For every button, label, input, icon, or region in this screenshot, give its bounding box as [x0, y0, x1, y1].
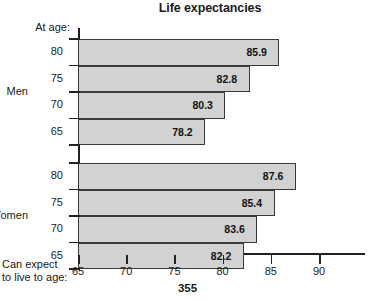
chart-figure: Life expectancies At age: 85.982.880.378…	[0, 0, 375, 300]
bar-value-label: 80.3	[192, 99, 212, 111]
bar-row: 80.3	[78, 92, 375, 119]
x-axis-tick-label: 80	[210, 265, 236, 277]
y-axis-caption: At age:	[12, 21, 70, 33]
x-axis-tick	[78, 255, 80, 264]
bar-row: 85.9	[78, 39, 375, 66]
bar-value-label: 82.8	[217, 73, 237, 85]
chart-title: Life expectancies	[110, 1, 310, 15]
y-axis-tick	[69, 242, 80, 244]
y-axis-tick-label: 65	[33, 125, 63, 137]
y-axis-tick-label: 70	[33, 222, 63, 234]
y-axis-tick-label: 80	[33, 169, 63, 181]
y-axis-tick-label: 70	[33, 98, 63, 110]
y-axis-tick-label: 80	[33, 45, 63, 57]
y-axis-tick	[69, 189, 80, 191]
y-axis-tick	[69, 144, 80, 146]
x-axis-tick	[319, 255, 321, 264]
x-axis-tick-label: 85	[258, 265, 284, 277]
y-axis-tick	[69, 162, 80, 164]
x-axis-tick	[126, 255, 128, 264]
x-axis-tick	[271, 255, 273, 264]
bar-row: 87.6	[78, 163, 375, 190]
y-axis-tick	[69, 215, 80, 217]
y-axis-tick	[69, 65, 80, 67]
y-axis-tick	[69, 91, 80, 93]
x-axis-tick	[174, 255, 176, 264]
bar-row: 82.8	[78, 66, 375, 93]
group-label-men: Men	[0, 85, 28, 97]
x-axis-tick-label: 75	[161, 265, 187, 277]
bar-row: 85.4	[78, 190, 375, 217]
bar-value-label: 82.2	[211, 250, 231, 262]
bar-value-label: 83.6	[224, 223, 244, 235]
y-axis-tick	[69, 38, 80, 40]
bar-value-label: 78.2	[172, 126, 192, 138]
group-label-women: Women	[0, 209, 28, 221]
bar-row: 83.6	[78, 216, 375, 243]
bar-row: 78.2	[78, 119, 375, 146]
page-number: 355	[0, 282, 375, 294]
y-axis-tick-label: 75	[33, 196, 63, 208]
x-axis-tick-label: 90	[306, 265, 332, 277]
x-axis-tick	[223, 255, 225, 264]
x-axis-caption-line1: Can expect	[2, 258, 74, 271]
x-axis-tick-label: 70	[113, 265, 139, 277]
x-axis-caption: Can expect to live to age:	[2, 258, 74, 283]
y-axis-tick	[69, 118, 80, 120]
bar-value-label: 85.9	[246, 46, 266, 58]
bar-value-label: 87.6	[263, 170, 283, 182]
y-axis-tick-label: 75	[33, 72, 63, 84]
bar-value-label: 85.4	[242, 197, 262, 209]
